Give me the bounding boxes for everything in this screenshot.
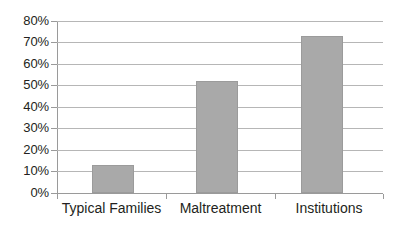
gridline-80 [57,21,383,22]
y-tick-label-20: 20% [1,143,49,156]
category-label-maltreatment: Maltreatment [166,200,275,217]
y-tick-label-60: 60% [1,57,49,70]
category-label-institutions: Institutions [275,200,383,217]
category-label-typical-families: Typical Families [57,200,166,217]
category-tick-1 [166,194,167,199]
y-tick-label-30: 30% [1,121,49,134]
category-tick-2 [275,194,276,199]
y-axis-tick-labels: 80% 70% 60% 50% 40% 30% 20% 10% 0% [0,0,49,235]
y-tick-label-70: 70% [1,35,49,48]
y-tick-label-50: 50% [1,78,49,91]
y-tick-label-0: 0% [1,186,49,199]
y-tick-label-80: 80% [1,14,49,27]
category-tick-start [57,194,58,199]
category-tick-end [383,194,384,199]
gridline-0-baseline [57,193,383,194]
bar-institutions[interactable] [301,36,343,193]
y-tick-label-10: 10% [1,164,49,177]
y-tick-label-40: 40% [1,100,49,113]
bar-chart: 80% 70% 60% 50% 40% 30% 20% 10% 0% [0,0,401,235]
bar-maltreatment[interactable] [196,81,238,193]
plot-area [57,21,383,193]
bar-typical-families[interactable] [92,165,134,193]
